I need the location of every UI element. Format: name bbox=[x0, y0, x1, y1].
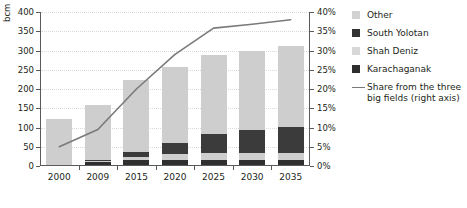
x-axis-tick bbox=[194, 166, 195, 170]
y-axis-right-tick-label: 20% bbox=[317, 85, 347, 93]
legend-item-label: Share from the three big fields (right a… bbox=[367, 82, 467, 103]
axis-tick bbox=[36, 166, 40, 167]
share-line bbox=[59, 20, 290, 147]
axis-tick bbox=[310, 12, 314, 13]
x-axis-tick-label: 2030 bbox=[230, 172, 274, 182]
legend-color-swatch bbox=[352, 11, 360, 19]
x-axis-tick-label: 2025 bbox=[192, 172, 236, 182]
y-axis-right-tick-label: 5% bbox=[317, 143, 347, 151]
y-axis-right-tick-label: 35% bbox=[317, 27, 347, 35]
y-axis-left-tick-label: 400 bbox=[4, 8, 34, 16]
line-series-layer bbox=[40, 12, 310, 166]
y-axis-right-tick-label: 40% bbox=[317, 8, 347, 16]
axis-tick bbox=[310, 147, 314, 148]
x-axis-tick bbox=[271, 166, 272, 170]
legend-item-label: South Yolotan bbox=[367, 28, 429, 39]
axis-tick bbox=[310, 89, 314, 90]
legend-line-swatch bbox=[352, 87, 365, 88]
y-axis-right-tick-label: 15% bbox=[317, 104, 347, 112]
x-axis-tick bbox=[79, 166, 80, 170]
legend-color-swatch bbox=[352, 29, 360, 37]
y-axis-left-tick-label: 250 bbox=[4, 66, 34, 74]
axis-tick bbox=[310, 51, 314, 52]
axis-tick bbox=[310, 70, 314, 71]
chart-figure: bcm 050100150200250300350400 0%5%10%15%2… bbox=[0, 0, 467, 208]
axis-tick bbox=[310, 31, 314, 32]
x-axis-tick-label: 2035 bbox=[269, 172, 313, 182]
legend-item[interactable]: Shah Deniz bbox=[352, 46, 467, 57]
y-axis-left-tick-label: 100 bbox=[4, 124, 34, 132]
legend-item[interactable]: Other bbox=[352, 10, 467, 21]
axis-tick bbox=[310, 128, 314, 129]
x-axis-tick bbox=[233, 166, 234, 170]
y-axis-left-tick-label: 300 bbox=[4, 47, 34, 55]
y-axis-left-tick-label: 150 bbox=[4, 104, 34, 112]
chart-legend: OtherSouth YolotanShah DenizKarachaganak… bbox=[352, 10, 467, 111]
y-axis-right-tick-label: 0% bbox=[317, 162, 347, 170]
y-axis-left-tick-label: 200 bbox=[4, 85, 34, 93]
y-axis-left-tick-label: 50 bbox=[4, 143, 34, 151]
legend-item-label: Karachaganak bbox=[367, 64, 431, 75]
x-axis-tick-label: 2015 bbox=[114, 172, 158, 182]
legend-item[interactable]: Karachaganak bbox=[352, 64, 467, 75]
legend-color-swatch bbox=[352, 65, 360, 73]
y-axis-right-tick-label: 25% bbox=[317, 66, 347, 74]
x-axis-tick-label: 2009 bbox=[76, 172, 120, 182]
axis-tick bbox=[310, 166, 314, 167]
legend-item-label: Other bbox=[367, 10, 393, 21]
legend-color-swatch bbox=[352, 47, 360, 55]
x-axis-tick bbox=[156, 166, 157, 170]
plot-area bbox=[40, 12, 310, 166]
x-axis-tick-label: 2000 bbox=[37, 172, 81, 182]
y-axis-right-tick-label: 30% bbox=[317, 47, 347, 55]
y-axis-left-tick-label: 350 bbox=[4, 27, 34, 35]
legend-item[interactable]: South Yolotan bbox=[352, 28, 467, 39]
x-axis-tick-label: 2020 bbox=[153, 172, 197, 182]
chart-title bbox=[150, 0, 350, 2]
legend-item[interactable]: Share from the three big fields (right a… bbox=[352, 82, 467, 103]
y-axis-left-tick-label: 0 bbox=[4, 162, 34, 170]
y-axis-right-tick-label: 10% bbox=[317, 124, 347, 132]
axis-tick bbox=[310, 108, 314, 109]
x-axis-tick bbox=[117, 166, 118, 170]
legend-item-label: Shah Deniz bbox=[367, 46, 418, 57]
